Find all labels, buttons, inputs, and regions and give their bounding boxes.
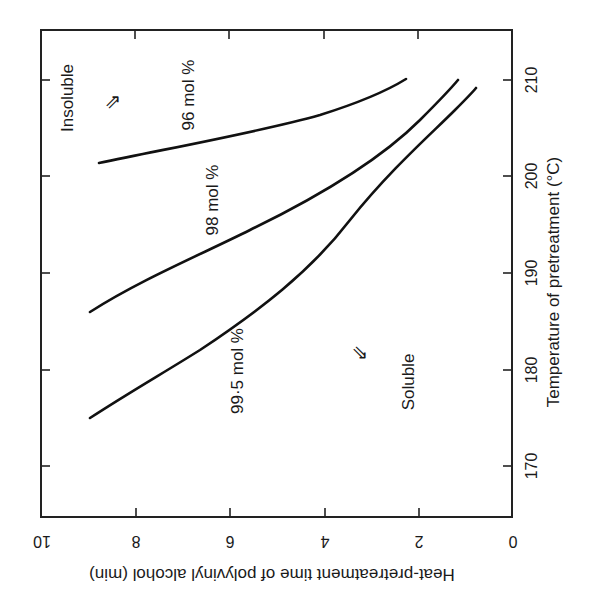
arrow-up-right-icon: ⇗	[105, 91, 122, 111]
y-tick-200: 200	[524, 163, 540, 190]
x-tick-10: 10	[33, 533, 51, 549]
chart-canvas	[0, 0, 603, 607]
y-axis-ticks	[41, 80, 512, 466]
insoluble-region-label: Insoluble	[59, 64, 76, 132]
y-tick-170: 170	[524, 453, 540, 480]
soluble-region-label: Soluble	[400, 354, 417, 411]
x-tick-8: 8	[132, 533, 141, 549]
arrow-down-right-icon: ⇘	[352, 342, 369, 362]
y-tick-180: 180	[524, 357, 540, 384]
y-tick-190: 190	[524, 260, 540, 287]
x-tick-2: 2	[415, 533, 424, 549]
series-98-mol-curve	[90, 80, 458, 312]
series-label-99-5-mol: 99·5 mol %	[229, 328, 246, 414]
x-tick-6: 6	[226, 533, 235, 549]
series-label-96-mol: 96 mol %	[180, 60, 197, 131]
series-99-5-mol-curve	[90, 88, 476, 418]
x-tick-4: 4	[321, 533, 330, 549]
x-axis-title: Heat-pretreatment time of polyvinyl alco…	[89, 566, 455, 583]
y-axis-title: Temperature of pretreatment (°C)	[545, 157, 562, 408]
series-label-98-mol: 98 mol %	[204, 165, 221, 236]
x-tick-0: 0	[509, 533, 518, 549]
y-tick-210: 210	[524, 67, 540, 94]
series-96-mol-curve	[99, 79, 406, 163]
